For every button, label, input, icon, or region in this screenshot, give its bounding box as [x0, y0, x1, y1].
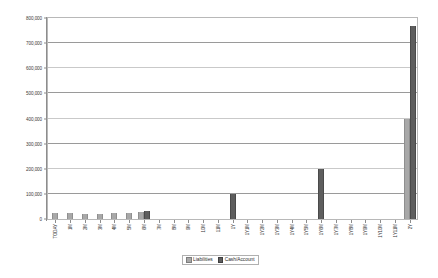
x-axis-tick-mark — [292, 220, 293, 223]
bar-group — [151, 18, 166, 219]
bar-liabilities[interactable] — [97, 214, 103, 219]
x-axis-tick-label: 1Y1M — [245, 224, 250, 235]
bar-group — [63, 18, 78, 219]
x-axis-label-slot: 9M — [181, 224, 196, 258]
x-axis-label-slot: 1Y9M — [358, 224, 373, 258]
y-axis-tick-label: 400,000 — [26, 116, 42, 121]
x-axis-tick-mark — [159, 220, 160, 223]
x-axis-label-slot: 4M — [107, 224, 122, 258]
x-axis-tick-mark — [351, 220, 352, 223]
x-axis-tick-label: 9M — [186, 224, 191, 230]
x-axis-tick-mark — [410, 220, 411, 223]
bar-group — [78, 18, 93, 219]
bar-group — [329, 18, 344, 219]
x-axis-label-slot: 1Y11M — [388, 224, 403, 258]
bar-cash-account[interactable] — [230, 194, 236, 219]
x-axis-tick-label: TODAY — [53, 224, 58, 239]
x-axis-tick-label: 1M — [68, 224, 73, 230]
x-axis-tick-mark — [174, 220, 175, 223]
legend-entry[interactable]: Cash/Account — [218, 257, 255, 263]
x-axis-tick-mark — [306, 220, 307, 223]
legend-label: Liabilities — [193, 257, 213, 262]
x-axis-label-slot: 1Y8M — [343, 224, 358, 258]
x-axis-label-slot: 1Y — [225, 224, 240, 258]
bar-cash-account[interactable] — [144, 211, 150, 219]
x-axis-tick-label: 7M — [156, 224, 161, 230]
x-axis-tick-mark — [129, 220, 130, 223]
bar-group — [166, 18, 181, 219]
x-axis-tick-label: 1Y7M — [333, 224, 338, 235]
bar-group — [48, 18, 63, 219]
x-axis-label-slot: 2M — [78, 224, 93, 258]
bar-group — [255, 18, 270, 219]
x-axis-label-slot: 8M — [166, 224, 181, 258]
x-axis-label-slot: 11M — [210, 224, 225, 258]
x-axis-label-slot: 1Y5M — [299, 224, 314, 258]
bar-group — [225, 18, 240, 219]
x-axis-tick-mark — [218, 220, 219, 223]
bar-group — [181, 18, 196, 219]
x-axis-tick-label: 1Y — [230, 224, 235, 229]
x-axis-tick-label: 1Y2M — [260, 224, 265, 235]
x-axis-tick-label: 4M — [112, 224, 117, 230]
x-axis-label-slot: 5M — [122, 224, 137, 258]
x-axis-tick-mark — [247, 220, 248, 223]
y-axis-tick-label: 700,000 — [26, 41, 42, 46]
bar-group — [284, 18, 299, 219]
bar-group — [107, 18, 122, 219]
bar-chart: 800,000700,000600,000500,000400,000300,0… — [0, 0, 438, 278]
x-axis-label-slot: 1Y10M — [373, 224, 388, 258]
bar-group — [240, 18, 255, 219]
x-axis-tick-label: 5M — [127, 224, 132, 230]
bar-cash-account[interactable] — [318, 169, 324, 219]
y-axis-tick-label: 600,000 — [26, 66, 42, 71]
x-axis-tick-label: 6M — [141, 224, 146, 230]
x-axis-tick-mark — [395, 220, 396, 223]
bar-liabilities[interactable] — [67, 213, 73, 219]
bars-layer — [48, 18, 417, 219]
y-axis-tick-label: 300,000 — [26, 141, 42, 146]
y-axis-tick-label: 500,000 — [26, 91, 42, 96]
x-axis-label-slot: 6M — [137, 224, 152, 258]
x-axis-label-slot: 1Y6M — [314, 224, 329, 258]
legend-label: Cash/Account — [225, 257, 255, 262]
bar-group — [358, 18, 373, 219]
x-axis-tick-mark — [55, 220, 56, 223]
x-axis-tick-label: 1Y10M — [378, 224, 383, 238]
bar-group — [269, 18, 284, 219]
x-axis-label-slot: 10M — [196, 224, 211, 258]
x-axis-tick-mark — [277, 220, 278, 223]
y-axis-tick-label: 200,000 — [26, 166, 42, 171]
y-axis: 800,000700,000600,000500,000400,000300,0… — [0, 17, 47, 220]
x-axis-label-slot: 1Y1M — [240, 224, 255, 258]
x-axis-tick-label: 3M — [97, 224, 102, 230]
x-axis-tick-label: 1Y9M — [363, 224, 368, 235]
legend-entry[interactable]: Liabilities — [186, 257, 213, 263]
x-axis-tick-label: 2M — [82, 224, 87, 230]
bar-liabilities[interactable] — [82, 214, 88, 219]
x-axis-tick-label: 1Y8M — [348, 224, 353, 235]
bar-group — [196, 18, 211, 219]
x-axis-tick-mark — [321, 220, 322, 223]
bar-liabilities[interactable] — [126, 213, 132, 219]
x-axis-tick-mark — [144, 220, 145, 223]
x-axis-label-slot: 1M — [63, 224, 78, 258]
bar-cash-account[interactable] — [410, 26, 416, 219]
bar-liabilities[interactable] — [52, 213, 58, 219]
bar-group — [137, 18, 152, 219]
x-axis-tick-label: 2Y — [407, 224, 412, 229]
x-axis-tick-mark — [70, 220, 71, 223]
bar-group — [210, 18, 225, 219]
bar-group — [92, 18, 107, 219]
x-axis-label-slot: 1Y2M — [255, 224, 270, 258]
x-axis-tick-mark — [100, 220, 101, 223]
x-axis-tick-mark — [85, 220, 86, 223]
x-axis-tick-mark — [365, 220, 366, 223]
bar-liabilities[interactable] — [111, 213, 117, 219]
bar-group — [314, 18, 329, 219]
x-axis-tick-mark — [336, 220, 337, 223]
y-axis-tick-label: 100,000 — [26, 191, 42, 196]
x-axis-tick-label: 1Y5M — [304, 224, 309, 235]
x-axis-tick-mark — [262, 220, 263, 223]
x-axis-tick-label: 1Y4M — [289, 224, 294, 235]
